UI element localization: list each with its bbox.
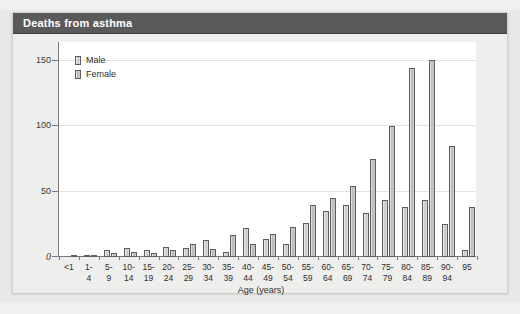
- bar-male: [402, 207, 408, 257]
- bar-female: [270, 234, 276, 258]
- legend-label: Female: [86, 69, 116, 79]
- bar-male: [124, 248, 130, 257]
- bar-male: [283, 244, 289, 257]
- bar-male: [203, 240, 209, 257]
- x-axis-tick: [178, 256, 179, 260]
- bar-male: [163, 247, 169, 257]
- bar-group: [442, 42, 456, 257]
- page-top-strip: [0, 0, 520, 10]
- y-axis-tick: [52, 60, 58, 61]
- female-swatch: [75, 70, 81, 79]
- x-axis-tick: [318, 256, 319, 260]
- y-axis-label: 100: [11, 120, 51, 130]
- bar-group: [203, 42, 217, 257]
- chart-body: 050100150 <11-45-910-1415-1920-2425-2930…: [13, 34, 507, 293]
- bar-male: [263, 239, 269, 257]
- chart-card: Deaths from asthma 050100150 <11-45-910-…: [12, 12, 508, 293]
- bar-male: [144, 250, 150, 257]
- x-axis-tick: [338, 256, 339, 260]
- bar-group: [124, 42, 138, 257]
- bar-female: [131, 252, 137, 257]
- y-axis-label: 0: [11, 251, 51, 262]
- bar-female: [71, 255, 77, 257]
- male-swatch: [75, 56, 81, 65]
- bar-male: [303, 223, 309, 257]
- y-axis-label: 50: [11, 186, 51, 196]
- bars-layer: [59, 42, 476, 257]
- bar-male: [323, 211, 329, 257]
- bar-female: [350, 186, 356, 257]
- x-axis-tick: [477, 256, 478, 260]
- x-axis-tick: [119, 256, 120, 260]
- legend-item: Female: [75, 68, 116, 80]
- x-axis-tick: [79, 256, 80, 260]
- bar-group: [163, 42, 177, 257]
- bar-female: [210, 249, 216, 257]
- bar-male: [442, 224, 448, 257]
- bar-female: [290, 227, 296, 257]
- legend-label: Male: [86, 55, 106, 65]
- bar-group: [303, 42, 317, 257]
- bar-group: [323, 42, 337, 257]
- x-axis-label: 95: [450, 262, 484, 273]
- bar-group: [343, 42, 357, 257]
- bar-group: [363, 42, 377, 257]
- x-axis-tick: [238, 256, 239, 260]
- y-axis-tick: [52, 191, 58, 192]
- bar-male: [183, 248, 189, 257]
- bar-female: [469, 207, 475, 257]
- bar-male: [422, 200, 428, 257]
- x-axis-tick: [198, 256, 199, 260]
- x-axis-tick: [59, 256, 60, 260]
- bar-female: [230, 235, 236, 257]
- card-title: Deaths from asthma: [13, 13, 507, 34]
- bar-female: [370, 159, 376, 257]
- bar-female: [330, 198, 336, 257]
- x-axis-tick: [258, 256, 259, 260]
- bar-male: [462, 250, 468, 257]
- y-axis-tick: [52, 125, 58, 126]
- bar-group: [243, 42, 257, 257]
- bar-male: [84, 255, 90, 257]
- bar-group: [422, 42, 436, 257]
- bar-group: [144, 42, 158, 257]
- x-axis-tick: [99, 256, 100, 260]
- bar-female: [409, 68, 415, 257]
- bar-group: [183, 42, 197, 257]
- x-axis-label-line1: 95: [450, 262, 484, 273]
- bar-female: [449, 146, 455, 257]
- bar-male: [243, 228, 249, 257]
- y-axis-tick: [52, 256, 58, 257]
- bar-group: [462, 42, 476, 257]
- x-axis-tick: [139, 256, 140, 260]
- bar-male: [223, 252, 229, 257]
- bar-female: [111, 253, 117, 257]
- bar-group: [283, 42, 297, 257]
- x-axis-tick: [457, 256, 458, 260]
- x-axis-tick: [159, 256, 160, 260]
- chart-legend: MaleFemale: [75, 54, 116, 82]
- x-axis-title: Age (years): [13, 285, 509, 295]
- y-axis-label: 150: [11, 55, 51, 65]
- bar-group: [402, 42, 416, 257]
- bar-male: [382, 200, 388, 257]
- bar-male: [363, 213, 369, 257]
- page-bottom-strip: [0, 302, 520, 314]
- bar-male: [343, 205, 349, 257]
- bar-female: [190, 244, 196, 257]
- bar-female: [250, 244, 256, 257]
- bar-female: [429, 60, 435, 257]
- x-axis-tick: [437, 256, 438, 260]
- x-axis-tick: [397, 256, 398, 260]
- x-axis-tick: [278, 256, 279, 260]
- x-axis-tick: [417, 256, 418, 260]
- bar-female: [91, 255, 97, 257]
- x-axis-tick: [298, 256, 299, 260]
- x-axis-tick: [358, 256, 359, 260]
- bar-group: [263, 42, 277, 257]
- x-axis-tick: [218, 256, 219, 260]
- bar-female: [310, 205, 316, 257]
- bar-female: [151, 253, 157, 257]
- bar-group: [382, 42, 396, 257]
- bar-female: [389, 126, 395, 257]
